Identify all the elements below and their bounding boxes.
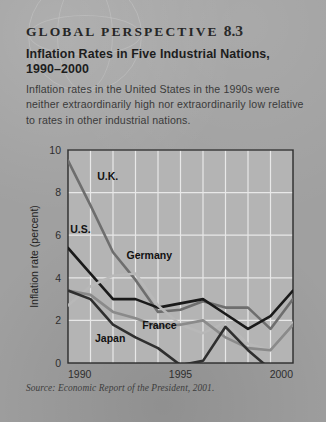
x-tick-label: 1995 xyxy=(169,368,193,380)
series-label-japan: Japan xyxy=(95,332,125,344)
y-tick-label: 10 xyxy=(49,144,61,156)
x-tick-label: 1990 xyxy=(68,368,92,380)
box-header-number: 8.3 xyxy=(224,22,243,39)
y-tick-label: 6 xyxy=(55,229,61,241)
box-header-label: GLOBAL PERSPECTIVE xyxy=(26,24,219,39)
series-label-us: U.S. xyxy=(70,223,91,235)
y-tick-label: 0 xyxy=(55,357,61,369)
chart-svg: 0246810199019952000Inflation rate (perce… xyxy=(22,140,308,380)
x-tick-label: 2000 xyxy=(270,368,294,380)
y-tick-label: 8 xyxy=(55,186,61,198)
chart-source-note: Source: Economic Report of the President… xyxy=(26,383,214,393)
box-body-text: Inflation rates in the United States in … xyxy=(26,82,309,128)
global-perspective-box: GLOBAL PERSPECTIVE8.3 Inflation Rates in… xyxy=(0,0,326,422)
series-label-uk: U.K. xyxy=(97,170,118,182)
y-axis-label: Inflation rate (percent) xyxy=(28,205,40,308)
y-tick-label: 4 xyxy=(55,272,61,284)
y-tick-label: 2 xyxy=(55,314,61,326)
series-label-france: France xyxy=(142,319,177,331)
box-title: Inflation Rates in Five Industrial Natio… xyxy=(26,47,300,77)
box-header: GLOBAL PERSPECTIVE8.3 xyxy=(26,22,243,40)
series-label-germany: Germany xyxy=(127,249,173,261)
inflation-line-chart: 0246810199019952000Inflation rate (perce… xyxy=(22,140,308,380)
